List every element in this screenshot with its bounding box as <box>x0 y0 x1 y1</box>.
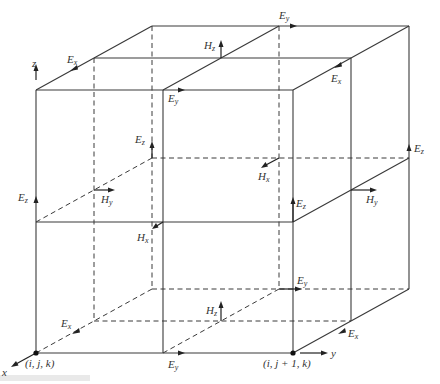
label-hz-bottom: Hz <box>205 304 218 318</box>
label-ez-back-right: Ez <box>413 142 425 156</box>
ey-bottom-front-arrow <box>178 351 185 356</box>
label-ez-left: Ez <box>17 191 29 205</box>
label-ey-bottom-back: Ey <box>296 274 308 288</box>
label-ey-top-back: Ey <box>278 9 290 23</box>
label-ey-top-front: Ey <box>167 92 179 106</box>
hz-bottom-arrow <box>219 301 224 321</box>
ey-top-back-arrow <box>290 24 297 29</box>
ez-left-arrow <box>34 196 39 203</box>
label-ex-top-right: Ex <box>330 72 342 86</box>
y-axis-arrow <box>300 351 328 356</box>
node-j-plus-1 <box>290 350 295 355</box>
label-ex-top-left: Ex <box>66 53 78 67</box>
label-hz-top: Hz <box>203 39 216 53</box>
ex-bottom-left-arrow <box>72 328 80 334</box>
ex-top-right-arrow <box>334 62 342 68</box>
label-hx-front: Hx <box>136 231 149 245</box>
hx-front-arrow <box>152 222 163 229</box>
axis-y-label: y <box>330 347 336 359</box>
axis-z-label: z <box>31 57 37 69</box>
label-hy-left: Hy <box>100 193 113 207</box>
yee-cell-diagram: z x y (i, j, k) (i, j + 1, k) Ex Ey Hz E… <box>0 0 440 384</box>
ex-bottom-right-arrow <box>338 328 346 334</box>
ey-top-front-arrow <box>178 88 185 93</box>
node-j-plus-1-label: (i, j + 1, k) <box>263 357 311 370</box>
ez-inner-arrow <box>150 141 155 158</box>
labels: z x y (i, j, k) (i, j + 1, k) Ex Ey Hz E… <box>1 9 425 378</box>
label-ex-bottom-left: Ex <box>60 317 72 331</box>
label-ez-front-mid: Ez <box>295 197 307 211</box>
ez-back-right-arrow <box>407 144 412 151</box>
label-ez-inner: Ez <box>134 133 146 147</box>
label-hy-right: Hy <box>365 193 378 207</box>
ey-bottom-back-arrow <box>279 287 302 292</box>
label-ey-bottom-front: Ey <box>167 358 179 372</box>
axis-x-label: x <box>1 366 7 378</box>
node-origin-label: (i, j, k) <box>25 357 55 370</box>
hx-back-arrow <box>261 158 279 168</box>
label-ex-bottom-right: Ex <box>347 327 359 341</box>
label-hx-back: Hx <box>257 170 270 184</box>
node-origin <box>33 350 38 355</box>
ez-front-mid-arrow <box>291 197 296 222</box>
caption-bar <box>0 375 90 381</box>
hz-top-arrow <box>219 40 224 58</box>
